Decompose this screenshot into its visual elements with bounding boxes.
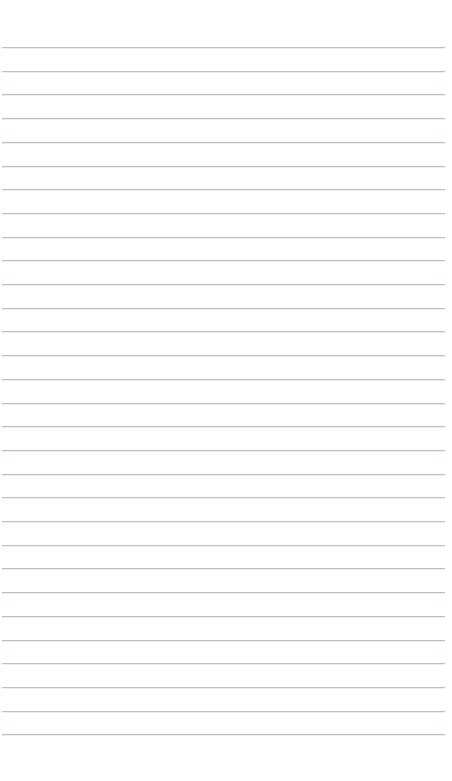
lined-paper-page (0, 0, 452, 781)
page-writing-area[interactable] (0, 0, 452, 781)
